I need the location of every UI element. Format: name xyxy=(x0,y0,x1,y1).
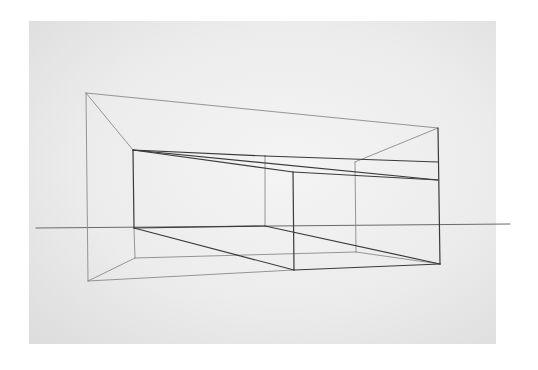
box-edge-line xyxy=(294,264,440,270)
construction-line xyxy=(355,128,438,162)
box-edge-line xyxy=(133,150,438,180)
box-edge-line xyxy=(265,226,440,264)
box-edge-line xyxy=(438,128,440,264)
construction-line xyxy=(86,93,438,128)
box-edge-line xyxy=(134,228,294,270)
box-edge-line xyxy=(133,150,134,228)
construction-line xyxy=(356,252,440,264)
perspective-drawing xyxy=(0,0,538,370)
box-edge-line xyxy=(293,172,294,270)
construction-line xyxy=(88,258,135,281)
construction-line xyxy=(88,270,294,281)
construction-line xyxy=(134,228,135,258)
box-edge-line xyxy=(265,156,438,162)
construction-line xyxy=(86,93,133,150)
construction-line xyxy=(86,93,88,281)
